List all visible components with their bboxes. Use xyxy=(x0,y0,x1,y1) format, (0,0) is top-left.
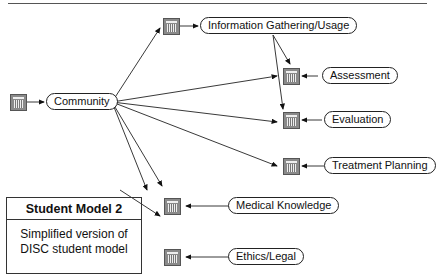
evaluation-node-icon xyxy=(283,112,300,129)
community-node-icon xyxy=(10,94,27,111)
medical-node-icon xyxy=(164,198,181,215)
ethics-node-icon xyxy=(164,249,181,266)
legend-line-1: Simplified version of xyxy=(7,227,141,242)
legend-line-2: DISC student model xyxy=(7,242,141,257)
legend-title: Student Model 2 xyxy=(7,198,141,220)
ethics-legal-node: Ethics/Legal xyxy=(228,248,304,265)
info-node-icon xyxy=(163,18,180,35)
medical-knowledge-node: Medical Knowledge xyxy=(228,197,339,214)
treatment-planning-node: Treatment Planning xyxy=(324,157,436,174)
treatment-node-icon xyxy=(283,158,300,175)
assessment-node-icon xyxy=(283,68,300,85)
legend-description: Simplified version of DISC student model xyxy=(7,220,141,257)
assessment-node: Assessment xyxy=(322,67,398,84)
legend-box: Student Model 2 Simplified version of DI… xyxy=(6,197,142,274)
evaluation-node: Evaluation xyxy=(324,111,391,128)
info-gathering-node: Information Gathering/Usage xyxy=(200,17,357,34)
community-node: Community xyxy=(46,93,118,110)
